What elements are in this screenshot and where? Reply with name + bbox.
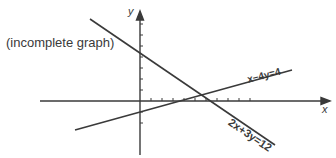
y-axis-label: y [128,5,134,17]
incomplete-graph-note: (incomplete graph) [6,35,114,50]
x-axis-label: x [322,103,328,115]
y-axis [137,11,144,155]
x-axis [40,98,330,105]
coordinate-graph [0,0,336,158]
y-axis-arrow-icon [137,11,144,20]
